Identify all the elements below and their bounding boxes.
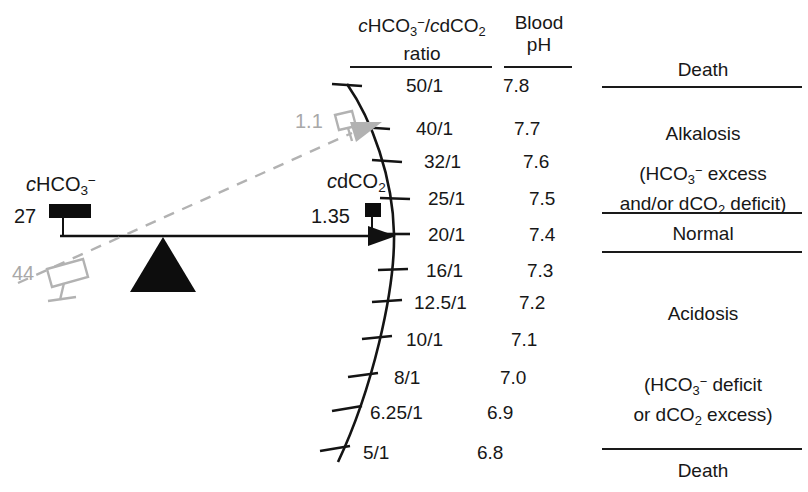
alternate-state-arrow: [18, 122, 382, 283]
ratio-value-1: 40/1: [416, 119, 453, 138]
tick-40-1: [360, 127, 390, 129]
tick-12-5-1: [372, 300, 402, 302]
ratio-value-3: 25/1: [428, 189, 465, 208]
ph-value-9: 6.9: [487, 403, 513, 422]
band-normal: Normal: [600, 222, 806, 246]
tick-16-1: [378, 269, 408, 270]
alkalosis-note-line2: and/or dCO2 deficit): [620, 193, 787, 214]
acidosis-note-line1: (HCO3− deficit: [644, 374, 762, 395]
ratio-value-6: 12.5/1: [414, 293, 467, 312]
band-rule-normal-bottom: [602, 251, 802, 253]
ratio-value-5: 16/1: [426, 261, 463, 280]
ph-value-7: 7.1: [511, 330, 537, 349]
bicarbonate-weight-stem: [62, 216, 64, 236]
tick-5-1: [320, 446, 350, 451]
tick-8-1: [348, 373, 378, 377]
band-rule-death-top: [602, 86, 802, 88]
bicarbonate-label: cHCO3−: [26, 170, 96, 202]
acid-base-balance-figure: cHCO3−/cdCO2 ratio Blood pH: [0, 0, 808, 492]
ratio-value-0: 50/1: [406, 76, 443, 95]
ph-value-0: 7.8: [503, 76, 529, 95]
band-rule-alkalosis-bottom: [602, 212, 802, 214]
ph-header-line1: Blood: [515, 12, 564, 33]
ratio-header-formula: cHCO3−/cdCO2: [358, 15, 486, 36]
current-state-arrow: [60, 226, 396, 246]
bicarbonate-value-alt: 44: [12, 262, 34, 284]
ratio-value-2: 32/1: [424, 152, 461, 171]
band-alkalosis: Alkalosis: [600, 122, 806, 146]
ratio-value-8: 8/1: [394, 368, 420, 387]
ph-scale-ticks: [320, 84, 410, 451]
band-acidosis: Acidosis: [600, 302, 806, 326]
dco2-weight-stem: [371, 215, 373, 236]
band-rule-death-bottom: [602, 448, 802, 450]
ph-value-6: 7.2: [519, 293, 545, 312]
alternate-bicarbonate-weight: [47, 259, 88, 301]
ratio-value-10: 5/1: [363, 443, 389, 462]
tick-50-1: [332, 84, 362, 86]
ratio-value-7: 10/1: [406, 330, 443, 349]
ph-value-5: 7.3: [527, 261, 553, 280]
bicarbonate-value: 27: [14, 205, 36, 227]
tick-6-25-1: [332, 406, 362, 411]
dco2-weight: [365, 203, 381, 217]
ratio-column-header: cHCO3−/cdCO2 ratio: [332, 12, 512, 65]
band-death-bottom: Death: [600, 459, 806, 483]
band-acidosis-note: (HCO3− deficit or dCO2 excess): [598, 370, 808, 433]
ratio-value-4: 20/1: [428, 225, 465, 244]
band-death-top: Death: [600, 58, 806, 82]
ph-value-2: 7.6: [523, 152, 549, 171]
ph-header-line2: pH: [527, 34, 551, 55]
ratio-header-rule: [350, 66, 492, 68]
ph-value-10: 6.8: [477, 443, 503, 462]
alkalosis-note-line1: (HCO3− excess: [639, 163, 767, 184]
tick-32-1: [372, 160, 402, 162]
bicarbonate-weight: [49, 204, 91, 218]
acidosis-note-line2: or dCO2 excess): [633, 404, 772, 425]
ph-column-header: Blood pH: [498, 12, 580, 56]
ph-value-8: 7.0: [500, 368, 526, 387]
ph-header-rule: [504, 66, 572, 68]
alternate-dco2-weight: [335, 111, 356, 141]
dco2-label: cdCO2: [327, 170, 386, 199]
ratio-header-word: ratio: [404, 43, 441, 64]
ph-value-3: 7.5: [529, 189, 555, 208]
ratio-value-9: 6.25/1: [370, 403, 423, 422]
dco2-value: 1.35: [311, 205, 350, 227]
ph-value-1: 7.7: [514, 119, 540, 138]
ph-value-4: 7.4: [529, 225, 555, 244]
fulcrum-triangle: [130, 237, 196, 292]
dco2-value-alt: 1.1: [295, 110, 323, 132]
tick-10-1: [362, 336, 392, 339]
